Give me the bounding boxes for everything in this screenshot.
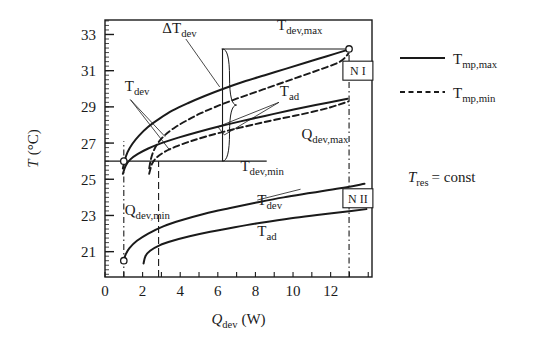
x-tick-label: 4	[176, 283, 184, 299]
x-tick-label: 12	[323, 283, 338, 299]
axis-ticks	[105, 21, 368, 277]
legend-tmp-min-label: Tmp,min	[453, 85, 496, 104]
group-box-n2-label: N II	[348, 192, 368, 206]
chart-legend: Tmp,maxTmp,min	[400, 51, 498, 104]
data-markers	[121, 46, 353, 264]
leader-delta-tdev	[186, 39, 220, 87]
legend-tmp-max-label: Tmp,max	[453, 51, 498, 70]
q-dev-min-label: Qdev,min	[125, 202, 171, 221]
series-line	[144, 209, 367, 263]
axis-tick-labels: 21232527293133024681012	[81, 27, 338, 299]
q-dev-max-marker-ni	[346, 46, 352, 52]
y-tick-label: 21	[81, 244, 96, 260]
delta-t-dev-brace	[223, 49, 237, 161]
x-tick-label: 6	[214, 283, 222, 299]
plot-border	[105, 20, 372, 277]
t-res-const-note: Tres= const	[408, 169, 476, 188]
q-dev-min-marker-ni	[121, 158, 127, 164]
x-tick-label: 10	[286, 283, 301, 299]
y-tick-label: 31	[81, 63, 96, 79]
chart-figure: 21232527293133024681012 ΔTdevTdev,maxTde…	[0, 0, 539, 346]
reference-lines	[105, 49, 349, 277]
t-dev-label-upper: Tdev	[125, 78, 150, 97]
x-tick-label: 0	[101, 283, 109, 299]
side-note: Tres= const	[408, 169, 476, 188]
series-line	[123, 50, 348, 169]
t-ad-label-upper: Tad	[280, 83, 300, 102]
axis-titles: T(°C)Qdev(W)	[25, 129, 266, 330]
plot-frame	[105, 20, 372, 277]
y-tick-label: 33	[81, 27, 96, 43]
q-dev-min-marker-nii	[121, 258, 127, 264]
series-line	[124, 184, 365, 261]
y-tick-label: 25	[81, 172, 96, 188]
y-tick-label: 27	[81, 136, 97, 152]
y-tick-label: 29	[81, 99, 96, 115]
group-box-n1-label: N I	[350, 64, 366, 78]
x-tick-label: 8	[252, 283, 260, 299]
chart-canvas: 21232527293133024681012 ΔTdevTdev,maxTde…	[0, 0, 539, 346]
y-axis-title: T(°C)	[25, 129, 42, 167]
q-dev-max-label: Qdev,max	[301, 126, 349, 145]
t-ad-label-lower: Tad	[257, 223, 277, 242]
leader-tad-upper-b	[224, 102, 279, 135]
x-axis-title: Qdev(W)	[211, 311, 265, 330]
series-line	[149, 53, 348, 168]
leader-tdev-upper-b	[130, 100, 169, 151]
delta-t-dev-label: ΔTdev	[162, 20, 197, 39]
x-tick-label: 2	[139, 283, 147, 299]
y-tick-label: 23	[81, 208, 96, 224]
data-series	[123, 50, 366, 264]
